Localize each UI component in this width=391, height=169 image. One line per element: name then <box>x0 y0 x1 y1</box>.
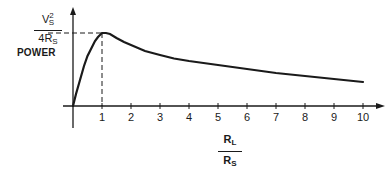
x-tick-label: 3 <box>157 111 163 123</box>
x-tick-label: 5 <box>215 111 221 123</box>
x-tick-label: 7 <box>273 111 279 123</box>
x-tick-label: 8 <box>302 111 308 123</box>
power-curve <box>73 33 363 106</box>
peak-power-label: V2S 4RS <box>34 10 62 48</box>
x-tick-label: 2 <box>128 111 134 123</box>
fraction-bar <box>34 30 62 31</box>
y-axis-label: POWER <box>17 47 56 58</box>
x-axis-arrow-icon <box>376 103 385 109</box>
x-tick-label: 1 <box>99 111 105 123</box>
x-tick-label: 4 <box>186 111 192 123</box>
x-tick-label: 10 <box>357 111 369 123</box>
x-axis-label: RL RS <box>218 133 242 169</box>
fraction-bar <box>218 151 242 152</box>
x-tick-label: 6 <box>244 111 250 123</box>
y-axis-arrow-icon <box>70 7 76 15</box>
x-tick-label: 9 <box>331 111 337 123</box>
